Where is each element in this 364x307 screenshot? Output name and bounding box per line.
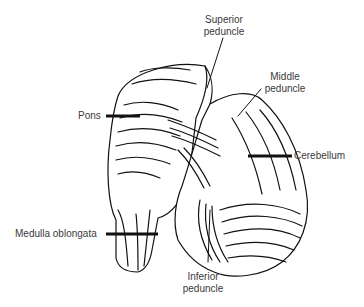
label-pons: Pons — [78, 110, 101, 122]
label-middle-peduncle: Middle peduncle — [260, 71, 310, 95]
label-line: peduncle — [260, 83, 310, 95]
label-line: peduncle — [196, 26, 252, 38]
label-line: peduncle — [178, 283, 228, 295]
label-cerebellum: Cerebellum — [294, 150, 345, 162]
label-line: Inferior — [178, 271, 228, 283]
brainstem-diagram: Superior peduncle Middle peduncle Pons C… — [0, 0, 364, 307]
label-line: Middle — [260, 71, 310, 83]
label-inferior-peduncle: Inferior peduncle — [178, 271, 228, 295]
label-medulla-oblongata: Medulla oblongata — [15, 228, 97, 240]
label-line: Superior — [196, 14, 252, 26]
label-superior-peduncle: Superior peduncle — [196, 14, 252, 38]
